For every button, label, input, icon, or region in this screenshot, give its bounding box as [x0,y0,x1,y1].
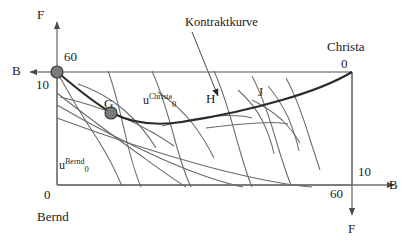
utility-label-bernd-sup: Bernd [65,157,85,166]
tick-label-christa-b-10: 10 [36,78,49,91]
point-label-j: J [258,85,263,98]
tangency-arcs [60,84,300,158]
utility-label-christa-sup: Christa [149,92,172,101]
christa-origin-name-label: Christa [327,40,365,53]
christa-origin-label: 0 [341,57,348,70]
christa-f-axis-label: F [348,222,355,235]
point-label-h: H [206,92,215,105]
tick-label-christa-f-60: 60 [330,187,343,200]
box-frame [57,72,352,185]
indifference-curve-christa-1 [152,71,191,187]
bernd-origin-label: 0 [44,188,51,201]
utility-label-bernd-sub: 0 [85,164,89,174]
utility-label-christa-sub: 0 [172,99,176,109]
edgeworth-box-figure: F B 60 10 Christa 0 10 B 60 F 0 Bernd Ko… [0,0,417,246]
tick-label-bernd-b-10: 10 [358,165,371,178]
contract-curve [57,72,352,124]
christa-b-axis-label: B [12,64,21,77]
indifference-curve-bernd-2 [57,105,243,187]
christa-indifference-curves [108,71,320,187]
tangency-arc-j-lower [206,123,288,128]
tick-label-bernd-f-60: 60 [64,50,77,63]
corner-point-bernd-endowment [51,66,63,78]
bernd-origin-name-label: Bernd [37,210,69,223]
tangency-arc-j-left [238,90,274,154]
indifference-curve-christa-0 [108,71,141,187]
kontraktkurve-label: Kontraktkurve [185,16,258,29]
point-label-g: G [104,97,113,110]
bernd-f-axis-label: F [37,8,44,21]
bernd-b-axis-label: B [389,178,398,191]
utility-label-christa: uChrista0 [143,93,176,108]
utility-label-bernd: uBernd0 [59,158,89,173]
bernd-axes [57,22,352,185]
kontraktkurve-leader-line [192,32,218,96]
